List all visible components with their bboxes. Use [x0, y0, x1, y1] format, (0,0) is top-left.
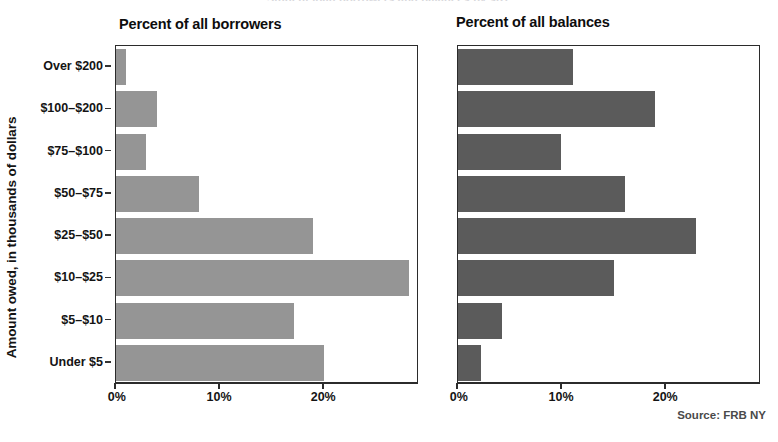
x-axis-borrowers: 0%10%20%: [115, 383, 418, 405]
source-note: Source: FRB NY: [677, 409, 766, 421]
plot-area-balances: [457, 45, 760, 383]
y-axis-tick-labels: Over $200$100–$200$75–$100$50–$75$25–$50…: [26, 45, 111, 383]
y-tick-label: $100–$200: [40, 101, 103, 115]
bar-row: [116, 91, 418, 127]
x-tick-label: 10%: [549, 390, 574, 404]
bar-row: [458, 134, 760, 170]
bar-row: [116, 218, 418, 254]
bar: [458, 134, 561, 170]
bar: [116, 91, 157, 127]
bar: [458, 176, 625, 212]
x-tick-label: 20%: [653, 390, 678, 404]
bar-row: [458, 91, 760, 127]
bar-row: [458, 218, 760, 254]
bar-row: [458, 49, 760, 85]
bar: [116, 260, 409, 296]
bar-row: [458, 345, 760, 381]
x-tick-label: 20%: [311, 390, 336, 404]
bar: [116, 303, 294, 339]
bar: [458, 49, 573, 85]
y-tick-label: $10–$25: [54, 270, 103, 284]
bar-row: [116, 176, 418, 212]
bar-row: [458, 303, 760, 339]
bar: [116, 345, 324, 381]
bar: [116, 49, 126, 85]
y-tick-label: Under $5: [50, 355, 104, 369]
x-tick-label: 0%: [450, 390, 468, 404]
y-tick-mark: [105, 234, 111, 236]
bar: [458, 303, 502, 339]
bar-row: [116, 49, 418, 85]
bar: [458, 91, 655, 127]
panel-title-borrowers: Percent of all borrowers: [119, 16, 281, 32]
bar-row: [116, 303, 418, 339]
y-tick-label: Over $200: [43, 59, 103, 73]
x-tick-label: 10%: [207, 390, 232, 404]
x-axis-line: [115, 383, 418, 384]
y-axis-title: Amount owed, in thousands of dollars: [0, 95, 24, 380]
bar: [116, 176, 199, 212]
y-tick-label: $5–$10: [61, 313, 103, 327]
y-tick-label: $75–$100: [47, 144, 103, 158]
y-tick-mark: [105, 150, 111, 152]
y-tick-label: $25–$50: [54, 228, 103, 242]
y-tick-mark: [105, 361, 111, 363]
x-axis-balances: 0%10%20%: [457, 383, 760, 405]
y-tick-mark: [105, 277, 111, 279]
bar-row: [458, 260, 760, 296]
y-tick-mark: [105, 108, 111, 110]
panel-title-balances: Percent of all balances: [456, 14, 610, 30]
y-tick-mark: [105, 319, 111, 321]
bar-row: [116, 345, 418, 381]
bar: [458, 260, 614, 296]
x-tick-label: 0%: [108, 390, 126, 404]
y-tick-mark: [105, 65, 111, 67]
y-tick-mark: [105, 192, 111, 194]
bar-row: [458, 176, 760, 212]
y-axis-title-label: Amount owed, in thousands of dollars: [5, 117, 20, 359]
clipped-figure-header: Student loan borrowers and balances by s…: [0, 0, 778, 1]
bar-row: [116, 260, 418, 296]
bar-row: [116, 134, 418, 170]
bar: [116, 134, 146, 170]
bar: [116, 218, 313, 254]
y-tick-label: $50–$75: [54, 186, 103, 200]
x-axis-line: [457, 383, 760, 384]
bar: [458, 345, 481, 381]
plot-area-borrowers: [115, 45, 418, 383]
bar: [458, 218, 696, 254]
